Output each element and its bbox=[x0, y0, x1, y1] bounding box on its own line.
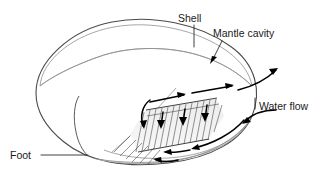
label-water-flow: Water flow bbox=[259, 100, 309, 112]
foot-structure bbox=[74, 96, 88, 156]
diagram-canvas: Shell Mantle cavity Water flow Foot bbox=[0, 0, 321, 177]
label-shell: Shell bbox=[178, 12, 201, 24]
foot-outline bbox=[74, 96, 88, 156]
shell-rim-contour bbox=[40, 48, 252, 86]
bivalve-anatomy-diagram: Shell Mantle cavity Water flow Foot bbox=[0, 0, 321, 177]
inhalant-arrow-2 bbox=[163, 149, 190, 155]
exhalant-arrow-2 bbox=[192, 83, 234, 93]
inhalant-arrow-outer bbox=[242, 110, 276, 124]
label-mantle-cavity: Mantle cavity bbox=[213, 27, 275, 39]
mantle-cavity-leader-head bbox=[210, 56, 217, 64]
label-foot: Foot bbox=[10, 149, 31, 161]
